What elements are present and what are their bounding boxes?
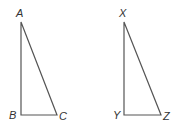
triangle-xyz: X Y Z xyxy=(113,7,171,122)
vertex-label-a: A xyxy=(15,7,23,19)
triangle-abc-shape xyxy=(21,22,57,115)
vertex-label-x: X xyxy=(118,7,127,19)
vertex-label-b: B xyxy=(9,109,16,121)
triangle-xyz-shape xyxy=(124,22,161,115)
vertex-label-z: Z xyxy=(162,110,171,122)
triangle-abc: A B C xyxy=(9,7,67,122)
vertex-label-c: C xyxy=(59,110,67,122)
vertex-label-y: Y xyxy=(113,109,121,121)
diagram-canvas: A B C X Y Z xyxy=(0,0,180,130)
